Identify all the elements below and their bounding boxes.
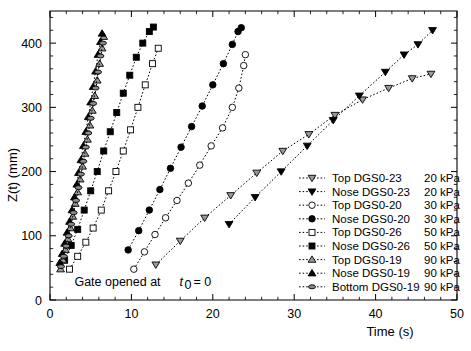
data-point — [68, 222, 75, 226]
data-point — [60, 254, 67, 258]
legend-label-pressure: 90 kPa — [424, 267, 460, 279]
data-point — [98, 207, 104, 213]
data-point — [188, 123, 195, 130]
x-tick-label: 50 — [450, 307, 464, 321]
data-point — [146, 207, 153, 214]
data-point — [70, 211, 77, 215]
data-point — [73, 198, 80, 202]
data-point — [65, 234, 72, 238]
data-point — [106, 188, 112, 194]
data-point — [94, 169, 100, 175]
data-point — [240, 62, 247, 69]
data-point — [77, 172, 84, 176]
data-point — [88, 188, 94, 194]
annotation-equation: = 0 — [193, 275, 211, 289]
data-point — [81, 207, 87, 213]
data-point — [236, 85, 243, 92]
data-point — [99, 41, 106, 45]
data-point — [114, 109, 120, 115]
y-axis-title: Z(t) (mm) — [5, 148, 20, 202]
data-point — [140, 40, 146, 46]
legend-label-name: Bottom DGS0-19 — [332, 281, 420, 293]
data-point — [101, 148, 107, 154]
data-point — [242, 51, 249, 58]
x-tick-label: 40 — [369, 307, 383, 321]
legend-label-pressure: 50 kPa — [424, 240, 460, 252]
legend-sample-marker — [309, 243, 315, 249]
data-point — [178, 144, 185, 151]
legend-label-name: Nose DGS0-26 — [332, 240, 410, 252]
data-point — [185, 180, 192, 187]
legend-label-pressure: 30 kPa — [424, 199, 460, 211]
data-point — [141, 249, 148, 256]
y-tick-label: 300 — [21, 101, 42, 115]
data-point — [135, 227, 142, 234]
x-axis-title: Time (s) — [366, 324, 413, 339]
data-point — [97, 54, 104, 58]
data-point — [199, 103, 206, 110]
data-point — [90, 225, 96, 231]
legend-sample-marker — [309, 202, 316, 209]
legend-label-name: Top DGS0-20 — [332, 199, 402, 211]
data-point — [150, 24, 156, 30]
data-point — [210, 82, 217, 89]
legend-sample-marker — [309, 229, 315, 235]
data-point — [197, 162, 204, 169]
data-point — [75, 226, 81, 232]
legend-label-name: Nose DGS0-20 — [332, 213, 410, 225]
data-point — [238, 24, 245, 31]
data-point — [174, 197, 181, 204]
legend-sample-marker — [309, 285, 316, 289]
data-point — [128, 127, 134, 133]
data-point — [107, 129, 113, 135]
legend-label-name: Top DGS0-26 — [332, 226, 402, 238]
data-point — [133, 54, 139, 60]
data-point — [57, 265, 64, 269]
data-point — [152, 231, 159, 238]
legend-label-pressure: 50 kPa — [424, 226, 460, 238]
legend-label-name: Top DGS0-23 — [332, 172, 402, 184]
data-point — [208, 143, 215, 150]
data-point — [83, 239, 89, 245]
data-point — [150, 61, 156, 67]
data-point — [113, 169, 119, 175]
data-point — [142, 82, 148, 88]
annotation-subscript: 0 — [184, 278, 191, 292]
data-point — [155, 45, 161, 51]
data-point — [90, 101, 97, 105]
data-point — [157, 186, 164, 193]
y-tick-label: 200 — [21, 165, 42, 179]
data-point — [95, 70, 102, 74]
legend-label-pressure: 90 kPa — [424, 254, 460, 266]
legend-label-pressure: 20 kPa — [424, 186, 460, 198]
data-point — [229, 41, 236, 48]
data-point — [219, 125, 226, 132]
x-tick-label: 20 — [206, 307, 220, 321]
data-point — [75, 186, 82, 190]
figure-root: 010203040500100200300400 Gate opened att… — [0, 0, 471, 351]
data-point — [92, 86, 99, 90]
data-point — [229, 104, 236, 111]
x-tick-label: 0 — [47, 307, 54, 321]
legend-label-name: Top DGS0-19 — [332, 254, 402, 266]
x-tick-label: 30 — [287, 307, 301, 321]
data-point — [63, 244, 70, 248]
data-point — [87, 116, 94, 120]
x-tick-label: 10 — [124, 307, 138, 321]
annotation-text: Gate opened at — [74, 275, 161, 289]
data-point — [220, 60, 227, 67]
data-point — [167, 165, 174, 172]
data-point — [131, 266, 138, 273]
data-point — [120, 148, 126, 154]
legend-label-name: Nose DGS0-23 — [332, 186, 410, 198]
y-tick-label: 100 — [21, 229, 42, 243]
data-point — [67, 266, 73, 272]
legend-label-pressure: 30 kPa — [424, 213, 460, 225]
data-point — [85, 131, 92, 135]
scatter-chart: 010203040500100200300400 Gate opened att… — [0, 0, 471, 351]
data-point — [125, 247, 132, 254]
legend-label-pressure: 90 kPa — [424, 281, 460, 293]
data-point — [127, 72, 133, 78]
y-tick-label: 400 — [21, 37, 42, 51]
legend-label-pressure: 20 kPa — [424, 172, 460, 184]
